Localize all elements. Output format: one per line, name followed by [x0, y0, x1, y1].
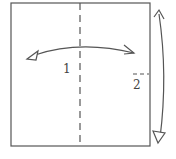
left-arrowhead-icon [27, 51, 38, 60]
horizontal-fold-arrow [35, 47, 134, 55]
right-arrowhead-icon [124, 45, 134, 54]
origami-diagram [0, 0, 176, 159]
step-label-2: 2 [133, 78, 141, 92]
step-label-1: 1 [63, 62, 71, 76]
vertical-fold-arrow [159, 14, 164, 138]
bottom-arrowhead-icon [153, 131, 165, 143]
